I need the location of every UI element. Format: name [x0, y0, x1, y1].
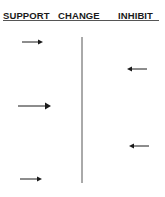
left-arrow-icon: [127, 67, 147, 72]
right-arrow-icon: [20, 177, 42, 182]
force-field-diagram: [0, 0, 165, 197]
left-arrow-icon: [129, 144, 149, 149]
right-arrow-icon: [22, 40, 43, 45]
right-arrow-icon: [18, 103, 51, 110]
